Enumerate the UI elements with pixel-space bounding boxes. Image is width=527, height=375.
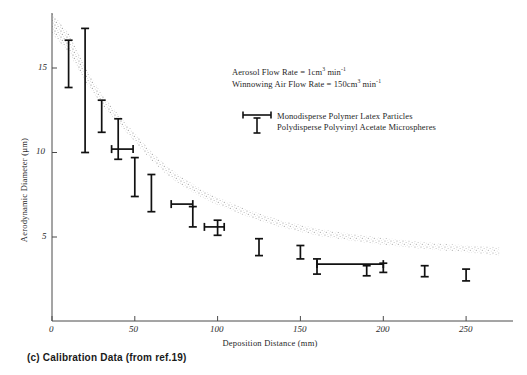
x-tick-label-100: 100	[210, 324, 224, 334]
y-tick-label-5: 5	[42, 231, 47, 241]
y-axis-title: Aerodynamic Diameter (µm)	[19, 130, 29, 250]
legend-label-monodisperse: Monodisperse Polymer Latex Particles	[277, 111, 413, 121]
y-axis-ticks	[52, 68, 57, 237]
x-tick-label-250: 250	[459, 324, 473, 334]
legend-symbols	[243, 112, 271, 134]
annotation-aerosol-flow-rate-sup2: -1	[341, 66, 346, 72]
annotation-winnowing-flow-rate-mid: min	[360, 79, 376, 89]
x-axis-ticks	[52, 316, 466, 321]
chart-plot-area	[0, 0, 527, 375]
y-tick-label-15: 15	[38, 62, 47, 72]
annotation-winnowing-flow-rate-text: Winnowing Air Flow Rate = 150cm	[232, 79, 357, 89]
chart-axes	[52, 13, 513, 321]
figure-caption: (c) Calibration Data (from ref.19)	[27, 352, 187, 363]
calibration-band	[52, 13, 499, 256]
x-tick-label-200: 200	[376, 324, 390, 334]
y-tick-label-10: 10	[36, 146, 45, 156]
legend-label-polydisperse: Polydisperse Polyvinyl Acetate Microsphe…	[277, 122, 436, 132]
x-tick-label-150: 150	[293, 324, 307, 334]
figure-calibration-data: 15 10 5 0 50 100 150 200 250 Aerodynamic…	[0, 0, 527, 375]
annotation-aerosol-flow-rate-text: Aerosol Flow Rate = 1cm	[232, 67, 322, 77]
annotation-aerosol-flow-rate-mid: min	[325, 67, 341, 77]
x-tick-label-50: 50	[129, 324, 138, 334]
annotation-winnowing-flow-rate-sup2: -1	[376, 78, 381, 84]
x-axis-title: Deposition Distance (mm)	[180, 338, 360, 348]
x-tick-label-0: 0	[49, 324, 54, 334]
annotation-winnowing-flow-rate: Winnowing Air Flow Rate = 150cm3 min-1	[232, 79, 381, 89]
annotation-aerosol-flow-rate: Aerosol Flow Rate = 1cm3 min-1	[232, 67, 346, 77]
series-monodisperse-error-bars	[112, 145, 384, 268]
